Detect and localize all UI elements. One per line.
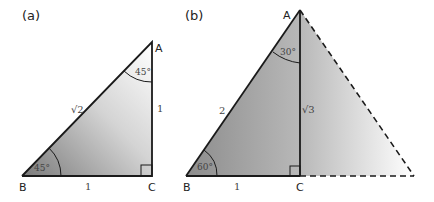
vertex-c-b: C	[296, 181, 304, 194]
triangle-diagram: (a) 45° 45° √2 1 1 A B C (b) 60° 30° 2 1…	[0, 0, 434, 202]
base-label-a: 1	[85, 181, 91, 192]
angle-a-label-a: 45°	[135, 67, 151, 77]
vertical-label-a: 1	[157, 103, 163, 114]
base-label-b: 1	[234, 181, 240, 192]
vertex-a-a: A	[155, 42, 163, 55]
panel-a: (a) 45° 45° √2 1 1 A B C	[19, 8, 163, 194]
panel-a-label: (a)	[22, 8, 40, 23]
vertex-b-b: B	[183, 181, 191, 194]
hypotenuse-label-a: √2	[71, 104, 84, 115]
panel-b-label: (b)	[185, 8, 203, 23]
vertical-label-b: √3	[302, 104, 315, 115]
angle-a-label-b: 30°	[280, 47, 296, 57]
vertex-a-b: A	[283, 9, 291, 22]
vertex-b-a: B	[19, 181, 27, 194]
vertex-c-a: C	[148, 181, 156, 194]
hypotenuse-label-b: 2	[219, 105, 225, 116]
angle-b-label-a: 45°	[34, 163, 50, 173]
angle-b-label-b: 60°	[197, 162, 213, 172]
panel-b: (b) 60° 30° 2 1 √3 A B C	[183, 8, 414, 194]
